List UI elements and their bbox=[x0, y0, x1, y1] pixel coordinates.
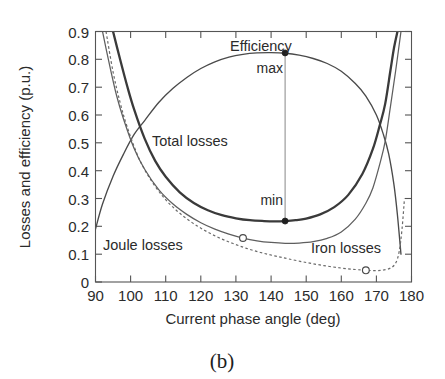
x-tick-label: 170 bbox=[364, 287, 389, 304]
y-tick-label: 0.8 bbox=[68, 51, 89, 68]
x-tick-label: 90 bbox=[87, 287, 104, 304]
total-losses-curve bbox=[113, 32, 397, 222]
y-tick-label: 0.6 bbox=[68, 107, 89, 124]
joule-losses-point bbox=[240, 235, 247, 242]
x-tick-label: 160 bbox=[329, 287, 354, 304]
figure-panel-b: 0.9 0.8 0.7 0.6 0.5 0.4 0.3 0.2 0.1 0 90… bbox=[0, 0, 445, 379]
total-losses-min bbox=[282, 218, 288, 224]
y-axis-title: Losses and efficiency (p.u.) bbox=[16, 66, 33, 248]
chart-svg: 0.9 0.8 0.7 0.6 0.5 0.4 0.3 0.2 0.1 0 90… bbox=[0, 0, 445, 379]
max-label: max bbox=[257, 60, 283, 76]
y-tick-label: 0.4 bbox=[68, 163, 89, 180]
y-tick-label: 0.7 bbox=[68, 79, 89, 96]
x-tick-label: 130 bbox=[223, 287, 248, 304]
total-losses-label: Total losses bbox=[152, 133, 228, 149]
x-tick-label: 180 bbox=[399, 287, 424, 304]
y-tick-label: 0.1 bbox=[68, 246, 89, 263]
x-tick-label: 120 bbox=[188, 287, 213, 304]
efficiency-curve bbox=[96, 53, 401, 255]
iron-losses-point bbox=[362, 267, 369, 274]
y-tick-labels: 0.9 0.8 0.7 0.6 0.5 0.4 0.3 0.2 0.1 0 bbox=[68, 24, 89, 292]
x-tick-label: 100 bbox=[118, 287, 143, 304]
joule-losses-label: Joule losses bbox=[103, 237, 183, 253]
y-tick-label: 0.2 bbox=[68, 218, 89, 235]
min-label: min bbox=[260, 192, 283, 208]
x-axis-title: Current phase angle (deg) bbox=[165, 310, 340, 327]
y-tick-label: 0.5 bbox=[68, 135, 89, 152]
joule-losses-curve bbox=[103, 32, 401, 244]
iron-losses-label: Iron losses bbox=[311, 240, 381, 256]
y-tick-label: 0.9 bbox=[68, 24, 89, 41]
x-tick-label: 140 bbox=[259, 287, 284, 304]
y-tick-label: 0.3 bbox=[68, 191, 89, 208]
x-tick-label: 110 bbox=[154, 287, 178, 304]
x-tick-labels: 90 100 110 120 130 140 150 160 170 180 bbox=[87, 287, 424, 304]
efficiency-label: Efficiency bbox=[230, 38, 293, 54]
figure-caption: (b) bbox=[210, 349, 235, 373]
x-tick-label: 150 bbox=[294, 287, 319, 304]
